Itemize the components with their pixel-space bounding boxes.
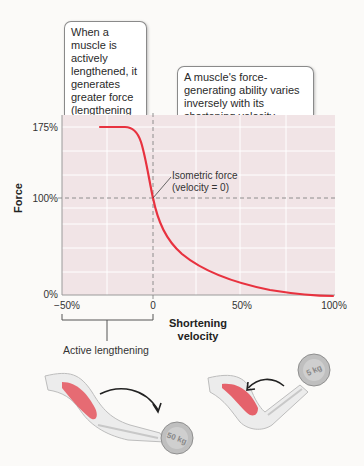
x-tick-0: 0 xyxy=(150,300,156,311)
arm-illustration-shortening: 5 kg xyxy=(208,354,330,429)
x-tick-neg50: −50% xyxy=(54,300,80,311)
y-tick-0: 0% xyxy=(44,289,59,300)
x-tick-50: 50% xyxy=(232,300,252,311)
isometric-label-1: Isometric force xyxy=(172,170,238,181)
x-tick-100: 100% xyxy=(321,300,347,311)
plot-area xyxy=(62,115,335,295)
active-lengthening-bracket xyxy=(62,314,153,341)
y-tick-175: 175% xyxy=(32,122,58,133)
isometric-label-2: (velocity = 0) xyxy=(172,182,229,193)
arrow-down-icon xyxy=(100,389,158,410)
force-velocity-chart: Isometric force (velocity = 0) 175% 100%… xyxy=(0,0,364,466)
active-lengthening-label: Active lengthening xyxy=(63,344,149,356)
arm-illustration-lengthening: 50 kg xyxy=(45,373,193,454)
x-axis-label-2: velocity xyxy=(178,330,220,342)
y-axis-label: Force xyxy=(12,183,24,213)
y-tick-100: 100% xyxy=(32,193,58,204)
arrow-up-left-icon xyxy=(248,379,284,388)
x-axis-label-1: Shortening xyxy=(169,317,227,329)
